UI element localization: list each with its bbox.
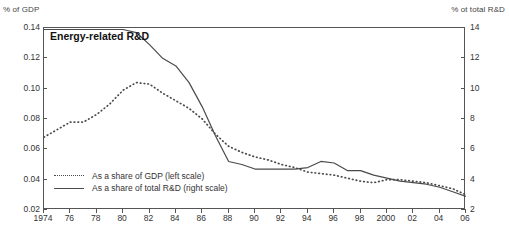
x-tick-mark	[43, 209, 44, 213]
x-tick-label: 92	[276, 213, 285, 223]
chart-legend: As a share of GDP (left scale) As a shar…	[52, 170, 228, 194]
right-tick-mark	[461, 118, 465, 119]
left-tick-mark	[43, 57, 47, 58]
x-tick-label: 90	[249, 213, 258, 223]
x-tick-mark	[280, 209, 281, 213]
x-tick-mark	[333, 209, 334, 213]
right-tick-mark	[461, 179, 465, 180]
x-tick-label: 82	[144, 213, 153, 223]
x-tick-mark	[360, 209, 361, 213]
right-tick-label: 4	[470, 175, 500, 183]
right-tick-label: 6	[470, 144, 500, 152]
x-tick-mark	[228, 209, 229, 213]
left-tick-label: 0.04	[6, 175, 40, 183]
left-tick-mark	[43, 88, 47, 89]
x-tick-label: 2000	[376, 213, 395, 223]
x-tick-label: 96	[328, 213, 337, 223]
x-tick-label: 04	[434, 213, 443, 223]
x-tick-mark	[96, 209, 97, 213]
x-tick-label: 88	[223, 213, 232, 223]
left-tick-label: 0.06	[6, 144, 40, 152]
x-tick-label: 76	[65, 213, 74, 223]
legend-label-total-rd: As a share of total R&D (right scale)	[92, 183, 228, 193]
x-tick-label: 02	[408, 213, 417, 223]
legend-item-total-rd: As a share of total R&D (right scale)	[52, 182, 228, 194]
x-tick-label: 78	[91, 213, 100, 223]
left-tick-mark	[43, 148, 47, 149]
chart-title: Energy-related R&D	[50, 30, 149, 42]
x-tick-mark	[201, 209, 202, 213]
x-tick-label: 80	[117, 213, 126, 223]
x-tick-mark	[439, 209, 440, 213]
left-tick-mark	[43, 118, 47, 119]
x-tick-label: 98	[355, 213, 364, 223]
x-tick-mark	[412, 209, 413, 213]
right-tick-label: 2	[470, 205, 500, 213]
x-tick-mark	[149, 209, 150, 213]
right-tick-mark	[461, 27, 465, 28]
x-tick-label: 1974	[34, 213, 53, 223]
right-axis-caption: % ot total R&D	[451, 5, 505, 14]
chart-figure: % of GDP % ot total R&D Energy-related R…	[0, 0, 509, 238]
right-tick-mark	[461, 148, 465, 149]
right-tick-label: 10	[470, 84, 500, 92]
left-tick-label: 0.02	[6, 205, 40, 213]
right-tick-label: 12	[470, 53, 500, 61]
right-tick-mark	[461, 88, 465, 89]
left-tick-mark	[43, 27, 47, 28]
left-tick-label: 0.08	[6, 114, 40, 122]
x-tick-mark	[386, 209, 387, 213]
x-tick-label: 84	[170, 213, 179, 223]
left-tick-label: 0.12	[6, 53, 40, 61]
left-tick-label: 0.14	[6, 23, 40, 31]
x-tick-label: 06	[460, 213, 469, 223]
x-tick-mark	[122, 209, 123, 213]
x-tick-mark	[175, 209, 176, 213]
legend-item-gdp: As a share of GDP (left scale)	[52, 170, 228, 182]
x-tick-mark	[254, 209, 255, 213]
right-tick-label: 8	[470, 114, 500, 122]
right-tick-mark	[461, 57, 465, 58]
right-tick-label: 14	[470, 23, 500, 31]
x-tick-mark	[69, 209, 70, 213]
left-axis-caption: % of GDP	[3, 5, 39, 14]
left-tick-mark	[43, 179, 47, 180]
x-tick-label: 94	[302, 213, 311, 223]
solid-line-swatch-icon	[52, 183, 86, 193]
x-tick-label: 86	[197, 213, 206, 223]
legend-label-gdp: As a share of GDP (left scale)	[92, 171, 204, 181]
x-tick-mark	[465, 209, 466, 213]
dotted-line-swatch-icon	[52, 171, 86, 181]
left-tick-label: 0.10	[6, 84, 40, 92]
x-tick-mark	[307, 209, 308, 213]
